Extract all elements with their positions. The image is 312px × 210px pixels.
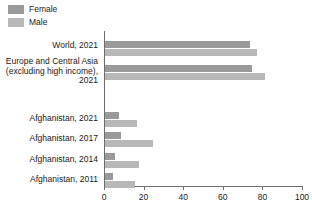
bar-female-afghanistan-2014: [105, 153, 115, 160]
bar-male-afghanistan-2011: [105, 181, 135, 188]
bar-male-afghanistan-2017: [105, 140, 153, 147]
category-label-afghanistan-2017: Afghanistan, 2017: [29, 134, 98, 144]
x-tick-mark-100: [302, 186, 303, 190]
bar-male-europe-2021: [105, 73, 265, 80]
bar-male-afghanistan-2014: [105, 161, 139, 168]
x-tick-label-100: 100: [295, 192, 309, 202]
x-tick-label-20: 20: [139, 192, 148, 202]
bar-female-afghanistan-2021: [105, 112, 119, 119]
x-tick-mark-20: [144, 186, 145, 190]
x-tick-label-40: 40: [178, 192, 187, 202]
bar-female-afghanistan-2011: [105, 173, 113, 180]
category-label-afghanistan-2014: Afghanistan, 2014: [29, 155, 98, 165]
bar-female-europe-2021: [105, 65, 252, 72]
category-label-afghanistan-2011: Afghanistan, 2011: [30, 175, 98, 185]
bar-female-world-2021: [105, 41, 250, 48]
category-label-world-2021: World, 2021: [52, 41, 98, 51]
bar-female-afghanistan-2017: [105, 132, 121, 139]
x-tick-label-80: 80: [258, 192, 267, 202]
x-tick-mark-60: [223, 186, 224, 190]
bar-male-world-2021: [105, 49, 257, 56]
category-label-europe-2021: Europe and Central Asia (excluding high …: [6, 57, 98, 86]
bar-chart: World, 2021 Europe and Central Asia (exc…: [0, 0, 312, 210]
bar-male-afghanistan-2021: [105, 120, 137, 127]
x-tick-mark-0: [104, 186, 105, 190]
x-tick-mark-80: [262, 186, 263, 190]
x-tick-mark-40: [183, 186, 184, 190]
x-tick-label-60: 60: [218, 192, 227, 202]
category-label-afghanistan-2021: Afghanistan, 2021: [29, 114, 98, 124]
x-tick-label-0: 0: [102, 192, 107, 202]
